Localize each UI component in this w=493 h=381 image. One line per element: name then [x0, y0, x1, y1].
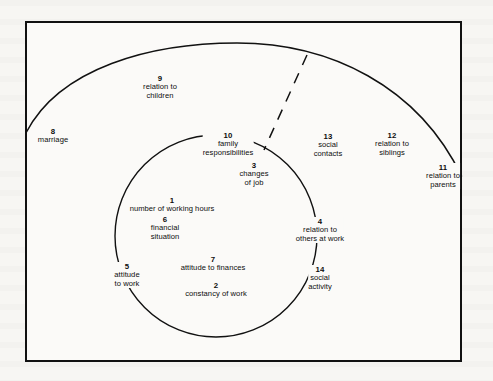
label-8-line-1: marriage: [38, 136, 68, 145]
label-14-social-activity: 14 social activity: [308, 265, 332, 291]
dashed-divider: [264, 55, 307, 150]
label-8-marriage: 8 marriage: [38, 127, 68, 145]
label-1-line-1: number of working hours: [130, 205, 215, 214]
diagram-canvas: [0, 0, 493, 381]
inner-circle: [115, 135, 317, 337]
label-12-line-2: siblings: [375, 149, 409, 158]
label-11-relation-to-parents: 11 relation to parents: [426, 163, 460, 189]
label-9-relation-to-children: 9 relation to children: [143, 74, 177, 100]
label-7-line-1: attitude to finances: [181, 264, 246, 273]
label-4-relation-to-others-at-work: 4 relation to others at work: [296, 217, 344, 243]
figure-container: 9 relation to children 8 marriage 10 fam…: [0, 0, 493, 381]
label-6-financial-situation: 6 financial situation: [151, 215, 180, 241]
label-2-constancy-of-work: 2 constancy of work: [185, 281, 247, 299]
label-6-line-2: situation: [151, 233, 180, 242]
label-5-line-2: to work: [114, 280, 139, 289]
label-3-changes-of-job: 3 changes of job: [239, 161, 268, 187]
label-13-social-contacts: 13 social contacts: [314, 132, 343, 158]
label-12-relation-to-siblings: 12 relation to siblings: [375, 131, 409, 157]
label-3-line-2: of job: [239, 179, 268, 188]
label-10-line-2: responsibilities: [203, 149, 254, 158]
label-4-line-2: others at work: [296, 235, 344, 244]
label-7-attitude-to-finances: 7 attitude to finances: [181, 255, 246, 273]
label-14-line-2: activity: [308, 283, 332, 292]
label-11-line-2: parents: [426, 181, 460, 190]
label-10-family-responsibilities: 10 family responsibilities: [203, 131, 254, 157]
label-2-line-1: constancy of work: [185, 290, 247, 299]
label-1-number-of-working-hours: 1 number of working hours: [130, 196, 215, 214]
label-13-line-2: contacts: [314, 150, 343, 159]
label-5-attitude-to-work: 5 attitude to work: [114, 262, 139, 288]
label-9-line-2: children: [143, 92, 177, 101]
